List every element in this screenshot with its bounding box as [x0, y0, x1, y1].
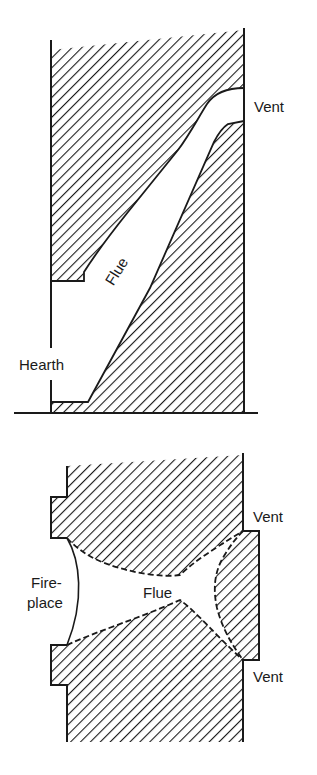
vent-label: Vent — [254, 98, 285, 115]
vent-lower-label: Vent — [253, 668, 284, 685]
plan-diagram: Vent Vent Flue Fire- place — [27, 453, 284, 742]
vent-upper-label: Vent — [253, 508, 284, 525]
plan-upper-masonry-hatch — [51, 455, 243, 576]
fireplace-label-line1: Fire- — [31, 574, 62, 591]
plan-flue-label: Flue — [143, 584, 172, 601]
flue-label: Flue — [101, 254, 131, 288]
section-diagram: Vent Flue Hearth — [14, 28, 285, 413]
plan-lower-masonry-hatch — [51, 600, 243, 742]
fireplace-flue-diagrams: Vent Flue Hearth Vent Vent Flue Fire- pl… — [0, 0, 317, 775]
hearth-label: Hearth — [19, 356, 64, 373]
fireplace-arc — [67, 538, 79, 645]
fireplace-label-line2: place — [27, 594, 63, 611]
